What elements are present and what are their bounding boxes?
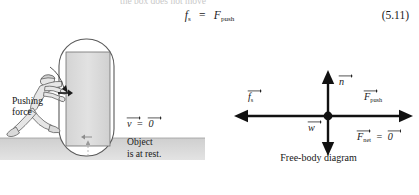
equation-number: (5.11): [382, 9, 409, 21]
net-force-subscript: net: [363, 136, 371, 143]
net-force-zero: 0: [388, 131, 393, 142]
normal-force-symbol: n: [339, 76, 344, 87]
velocity-vector-symbol: v: [127, 118, 132, 130]
equation-lhs: fs: [185, 9, 191, 23]
pushing-force-label-fbd: Fpush: [364, 91, 382, 103]
equation-rhs: Fpush: [214, 9, 235, 21]
pushing-force-label-line2: force: [12, 106, 43, 117]
equation-operator: =: [199, 9, 206, 21]
static-friction-subscript: s: [251, 96, 253, 103]
free-body-diagram-caption: Free-body diagram: [218, 152, 419, 164]
equation-static-friction: fs = Fpush: [0, 9, 419, 23]
weight-vector: [322, 116, 334, 156]
velocity-operator: =: [137, 118, 143, 129]
free-body-diagram: n fs Fpush: [218, 68, 419, 195]
particle-dot: [324, 112, 333, 121]
equation-rhs-symbol: F: [214, 9, 221, 21]
normal-force-label: n: [339, 76, 344, 88]
pushing-force-vector: [328, 110, 413, 122]
pushing-illustration: Pushing force v = 0 Object: [0, 34, 205, 195]
cut-off-text-line: the box does not move: [120, 0, 310, 5]
weight-label: w: [308, 122, 315, 134]
object-at-rest-line1: Object: [127, 136, 161, 148]
net-force-operator: =: [377, 131, 383, 142]
pushing-force-label-line1: Pushing: [12, 95, 43, 106]
normal-force-vector: [322, 70, 334, 116]
object-box: [66, 52, 110, 146]
zero-vector-symbol: 0: [148, 118, 153, 130]
equation-rhs-subscript: push: [221, 15, 234, 23]
pushing-force-subscript: push: [370, 96, 382, 103]
velocity-symbol: v: [127, 118, 132, 129]
equation-lhs-subscript: s: [188, 15, 191, 23]
static-friction-label: fs: [248, 91, 253, 103]
zero-symbol: 0: [148, 118, 153, 129]
weight-symbol: w: [308, 122, 315, 133]
figure-container: the box does not move fs = Fpush (5.11): [0, 0, 419, 195]
net-force-equation-label: Fnet = 0: [357, 131, 393, 143]
object-at-rest-label: Object is at rest.: [127, 136, 161, 161]
object-at-rest-line2: is at rest.: [127, 148, 161, 160]
velocity-equation-label: v = 0: [127, 118, 153, 130]
cut-off-text: the box does not move: [120, 0, 206, 5]
pushing-force-label: Pushing force: [12, 95, 43, 118]
static-friction-vector: [234, 110, 328, 122]
